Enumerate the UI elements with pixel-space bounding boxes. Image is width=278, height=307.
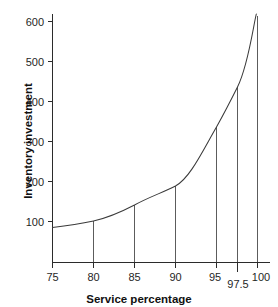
y-axis-title-wrap: Inventory investment <box>18 56 36 226</box>
x-axis-title-wrap: Service percentage <box>0 289 278 307</box>
y-tick-label-600: 600 <box>26 16 44 28</box>
x-tick-label-90: 90 <box>169 271 181 283</box>
data-curve <box>53 14 257 228</box>
x-tick-label-75: 75 <box>46 271 58 283</box>
y-axis-title: Inventory investment <box>22 83 34 199</box>
x-axis-title: Service percentage <box>86 293 191 305</box>
chart-droplines <box>94 16 258 262</box>
x-tick-label-85: 85 <box>128 271 140 283</box>
y-axis-ticks <box>48 22 53 222</box>
x-axis-ticks <box>53 263 258 273</box>
x-tick-label-80: 80 <box>87 271 99 283</box>
x-tick-label-95: 95 <box>209 271 221 283</box>
x-axis-tick-labels: 75 80 85 90 95 97.5 100 <box>46 271 270 290</box>
x-tick-label-100: 100 <box>252 271 270 283</box>
